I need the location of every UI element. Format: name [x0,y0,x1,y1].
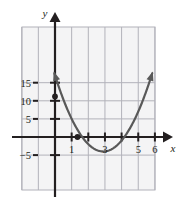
data-point [52,94,58,100]
coordinate-plane-svg: 1356−551015 y x [0,0,182,207]
y-axis-arrowhead [50,12,61,22]
x-tick-label: 6 [152,144,157,155]
graph-figure: 1356−551015 y x [0,0,182,207]
y-tick-label: 15 [21,78,32,89]
x-tick-label: 3 [102,144,107,155]
x-tick-label: 1 [69,144,74,155]
x-axis-label: x [170,142,176,154]
y-tick-label: −5 [20,150,31,161]
y-tick-label: 10 [21,96,32,107]
y-axis-label: y [42,7,48,19]
data-point [75,134,81,140]
y-tick-label: 5 [26,114,31,125]
x-axis-arrowhead [163,132,173,143]
x-tick-label: 5 [136,144,141,155]
